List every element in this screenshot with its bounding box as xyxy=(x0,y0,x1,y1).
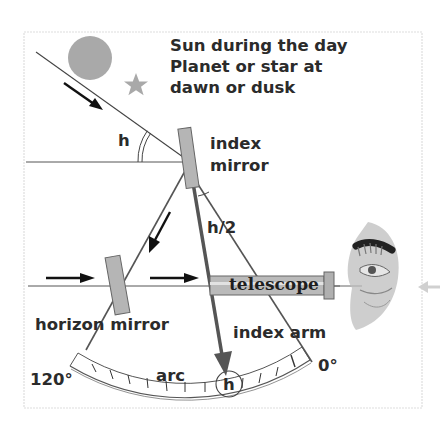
arc-label: arc xyxy=(156,368,185,385)
legend-dawn-dusk: dawn or dusk xyxy=(170,80,295,97)
index-arm-label: index arm xyxy=(233,325,326,342)
index-mirror-label-1: index xyxy=(210,136,261,153)
telescope-label: telescope xyxy=(229,276,319,293)
ray-direction-arrow xyxy=(64,83,103,110)
sextant-diagram: Sun during the day Planet or star at daw… xyxy=(0,0,447,443)
half-angle-label: h/2 xyxy=(207,220,236,237)
star-icon xyxy=(124,73,148,95)
scale-120-label: 120° xyxy=(30,372,73,389)
legend-planet-star: Planet or star at xyxy=(170,59,322,76)
observer-eye-icon xyxy=(348,222,399,330)
angle-h-arc xyxy=(138,131,147,162)
index-arm xyxy=(190,165,232,376)
sun-icon xyxy=(68,36,112,80)
incoming-light-ray xyxy=(36,52,190,162)
index-mirror-label-2: mirror xyxy=(210,158,269,175)
side-pointer-icon xyxy=(418,281,428,293)
angle-h-label: h xyxy=(118,133,130,150)
horizon-mirror-label: horizon mirror xyxy=(35,317,169,334)
scale-0-label: 0° xyxy=(318,358,338,375)
reading-h-label: h xyxy=(223,377,235,394)
horizon-ray-arrow-right xyxy=(150,273,199,283)
horizon-ray-arrow-left xyxy=(46,273,95,283)
legend-sun: Sun during the day xyxy=(170,38,348,55)
arc-scale xyxy=(70,347,311,400)
horizon-mirror xyxy=(105,255,130,315)
